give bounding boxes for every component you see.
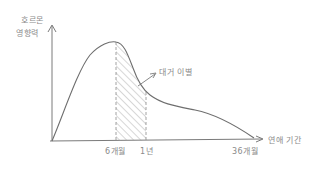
y-axis-label-line1: 호르몬 — [21, 14, 44, 25]
tick-label-1-year: 1년 — [140, 145, 153, 156]
annotation-label: 대거 이별 — [159, 66, 192, 77]
y-axis — [48, 25, 56, 141]
x-axis — [50, 136, 263, 142]
tick-label-6-months: 6개월 — [105, 145, 126, 156]
x-axis-label: 연애 기간 — [268, 134, 301, 145]
hatched-region — [116, 40, 146, 141]
diagram-canvas — [0, 0, 323, 172]
tick-label-36-months: 36개월 — [232, 145, 258, 156]
hormone-curve — [52, 42, 254, 141]
annotation-arrow — [138, 73, 156, 86]
y-axis-label-line2: 영향력 — [16, 27, 39, 38]
